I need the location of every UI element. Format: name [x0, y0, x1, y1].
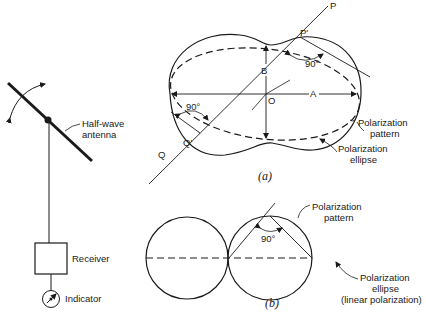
pattern-leader-b [298, 205, 310, 218]
pattern-label-a-2: pattern [370, 128, 400, 139]
ellipse-label-a-2: ellipse [350, 154, 377, 165]
point-p-prime-label: P' [300, 27, 308, 38]
axis-a-label: A [310, 88, 317, 99]
point-q-label: Q [158, 149, 165, 160]
antenna-setup: Half-wave antenna Receiver Indicator [8, 83, 124, 308]
receiver-box [35, 243, 67, 274]
caption-a: (a) [258, 169, 272, 183]
angle-b-label: 90° [261, 233, 276, 244]
ellipse-label-b: Polarization [360, 272, 410, 283]
pattern-label-b-2: pattern [324, 212, 354, 223]
short-ray [266, 80, 290, 94]
antenna-label-2: antenna [82, 129, 117, 140]
caption-b: (b) [265, 296, 279, 310]
angle-lower-label: 90° [186, 101, 201, 112]
point-q-prime-label: Q' [183, 137, 192, 148]
ellipse-label-a: Polarization [338, 143, 388, 154]
ellipse-label-b-3: (linear polarization) [341, 294, 422, 305]
polarization-diagram: Half-wave antenna Receiver Indicator A B [0, 0, 426, 312]
pattern-label-b: Polarization [312, 201, 362, 212]
point-p-label: P [330, 0, 336, 11]
pattern-label-a: Polarization [358, 117, 408, 128]
figure-a: A B 90° 90° P P' O Q' Q Polarization pat… [149, 0, 408, 184]
figure-b: 90° Polarization pattern Polarization el… [146, 201, 422, 310]
ellipse-leader [320, 139, 337, 152]
antenna-leader [65, 124, 80, 131]
receiver-label: Receiver [72, 253, 110, 264]
angle-arc-b [260, 228, 282, 232]
antenna-label: Half-wave [82, 118, 124, 129]
chord-left [229, 203, 275, 258]
ellipse-label-b-2: ellipse [372, 283, 399, 294]
indicator-hub [50, 298, 53, 301]
ellipse-leader-b [336, 262, 358, 279]
angle-upper-label: 90° [305, 58, 320, 69]
angle-arc-lower [180, 111, 208, 120]
antenna-pivot [45, 117, 52, 124]
point-o-label: O [268, 95, 275, 106]
short-ray-2 [252, 94, 266, 110]
indicator-label: Indicator [65, 293, 101, 304]
